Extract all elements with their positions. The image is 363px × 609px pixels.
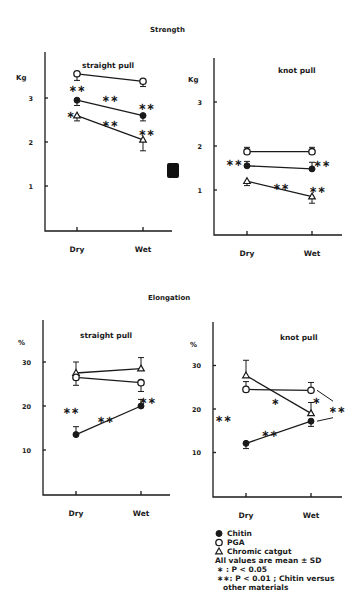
series-line: [76, 369, 141, 373]
y-tick-label: 30: [22, 359, 32, 367]
legend-label: PGA: [227, 538, 245, 547]
axes: [45, 52, 172, 231]
y-tick-label: 3: [197, 99, 202, 107]
significance-annotation: ∗∗: [309, 184, 326, 195]
open-circle-marker: [243, 386, 249, 392]
filled-circle-marker: [74, 97, 80, 103]
panel-strength-straight-pull: 123DryWetKgstraight pull∗∗∗∗∗∗∗∗∗∗∗: [16, 52, 172, 254]
filled-circle-marker: [243, 440, 249, 446]
x-category-label-wet: Wet: [303, 511, 320, 520]
series-pga: [73, 374, 144, 391]
x-category-label-dry: Dry: [69, 509, 84, 518]
figure: Strength Elongation 123DryWetKgstraight …: [0, 0, 363, 609]
legend-note: ∗ : P < 0.05: [217, 565, 267, 574]
open-triangle-marker: [243, 372, 250, 378]
open-triangle-marker: [138, 365, 145, 371]
x-category-label-dry: Dry: [240, 249, 255, 258]
significance-annotation: ∗∗: [272, 181, 289, 192]
section-title-strength: Strength: [150, 26, 185, 34]
legend-note: All values are mean ± SD: [215, 556, 321, 565]
filled-circle-marker: [73, 432, 79, 438]
significance-annotation: ∗∗: [102, 93, 119, 104]
filled-circle-marker: [140, 113, 146, 119]
y-tick-label: 2: [28, 139, 33, 147]
series-pga: [244, 147, 315, 155]
legend-open-triangle-icon: [216, 548, 223, 554]
significance-annotation: ∗∗: [215, 413, 232, 424]
significance-annotation: ∗: [312, 395, 320, 406]
open-circle-marker: [308, 387, 314, 393]
y-axis-unit: %: [190, 341, 197, 349]
series-line: [246, 389, 311, 390]
series-pga: [243, 382, 314, 394]
open-circle-marker: [73, 374, 79, 380]
y-tick-label: 30: [192, 362, 202, 370]
significance-annotation: ∗∗: [261, 428, 278, 439]
x-category-label-wet: Wet: [133, 509, 150, 518]
panel-title: knot pull: [278, 66, 316, 75]
y-tick-label: 3: [28, 95, 33, 103]
legend: ChitinPGAChromic catgutAll values are me…: [215, 529, 335, 592]
y-tick-label: 10: [22, 447, 32, 455]
significance-annotation: ∗∗: [138, 127, 155, 138]
legend-label: Chitin: [227, 529, 252, 538]
significance-annotation: ∗∗: [62, 405, 79, 416]
panel-elongation-knot-pull: 102030DryWet%knot pull∗∗∗∗∗∗∗∗: [190, 322, 345, 520]
panel-title: straight pull: [80, 331, 132, 340]
axes: [213, 322, 342, 497]
panel-title: knot pull: [280, 333, 318, 342]
open-circle-marker: [138, 379, 144, 385]
series-chitin: [244, 161, 315, 171]
open-circle-marker: [140, 78, 146, 84]
open-triangle-marker: [244, 178, 251, 184]
section-title-elongation: Elongation: [148, 294, 190, 302]
y-tick-label: 1: [28, 183, 33, 191]
filled-circle-marker: [308, 418, 314, 424]
y-tick-label: 2: [197, 143, 202, 151]
panel-strength-knot-pull: 123DryWetKgknot pull∗∗∗∗∗∗∗∗: [188, 58, 342, 258]
series-chromic-catgut: [243, 360, 315, 415]
x-category-label-dry: Dry: [239, 511, 254, 520]
open-circle-marker: [244, 149, 250, 155]
x-category-label-wet: Wet: [304, 249, 321, 258]
significance-annotation: ∗∗: [226, 157, 243, 168]
y-axis-unit: Kg: [16, 74, 26, 82]
series-line: [246, 376, 311, 414]
significance-bracket: [317, 418, 333, 421]
open-circle-marker: [309, 149, 315, 155]
legend-open-circle-icon: [216, 539, 222, 545]
series-chitin: [243, 418, 314, 448]
y-axis-unit: Kg: [188, 76, 198, 84]
significance-annotation: ∗∗: [138, 101, 155, 112]
panel-title: straight pull: [82, 61, 134, 70]
legend-note: ∗∗: P < 0.01 ; Chitin versus: [217, 574, 335, 583]
series-chromic-catgut: [73, 358, 145, 376]
open-triangle-marker: [308, 410, 315, 416]
legend-filled-circle-icon: [216, 531, 222, 537]
y-axis-unit: %: [18, 339, 25, 347]
scan-artifact-square: [167, 163, 179, 178]
y-tick-label: 20: [22, 403, 32, 411]
y-tick-label: 10: [192, 449, 202, 457]
significance-annotation: ∗: [271, 396, 279, 407]
filled-circle-marker: [244, 163, 250, 169]
significance-annotation: ∗∗: [102, 118, 119, 129]
significance-annotation: ∗∗: [139, 395, 156, 406]
panel-elongation-straight-pull: 102030DryWet%straight pull∗∗∗∗∗∗: [18, 320, 170, 518]
significance-annotation: ∗∗: [69, 83, 86, 94]
series-line: [247, 166, 312, 169]
open-triangle-marker: [74, 112, 81, 118]
legend-note: other materials: [223, 583, 289, 592]
y-tick-label: 20: [192, 406, 202, 414]
x-category-label-wet: Wet: [135, 245, 152, 254]
axes: [214, 58, 342, 235]
significance-annotation: ∗∗: [329, 404, 346, 415]
significance-annotation: ∗∗: [97, 414, 114, 425]
series-line: [246, 421, 311, 443]
x-category-label-dry: Dry: [70, 245, 85, 254]
series-line: [77, 74, 143, 81]
significance-annotation: ∗∗: [313, 158, 330, 169]
series-line: [76, 377, 141, 382]
legend-label: Chromic catgut: [227, 547, 292, 556]
open-circle-marker: [74, 71, 80, 77]
